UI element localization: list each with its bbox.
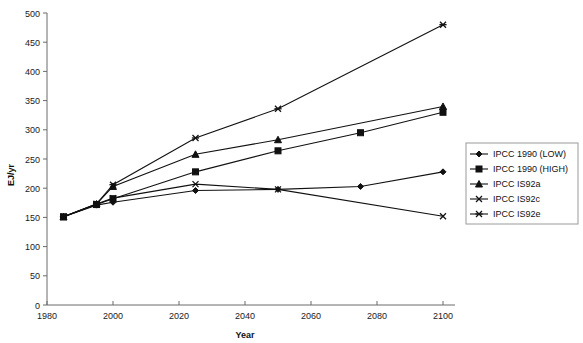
legend-label: IPCC 1990 (HIGH) [493, 164, 568, 174]
y-tick-label: 500 [25, 9, 40, 19]
x-axis-title: Year [235, 330, 255, 340]
y-tick-label: 350 [25, 96, 40, 106]
square-marker [440, 109, 446, 115]
legend-label: IPCC IS92c [493, 194, 541, 204]
y-tick-label: 400 [25, 67, 40, 77]
data-point-square [440, 109, 446, 115]
data-point-square [476, 166, 482, 172]
legend-label: IPCC 1990 (LOW) [493, 149, 566, 159]
x-tick-label: 2100 [433, 311, 453, 321]
y-tick-label: 300 [25, 125, 40, 135]
x-tick-label: 1980 [37, 311, 57, 321]
x-tick-label: 2020 [169, 311, 189, 321]
y-tick-label: 450 [25, 38, 40, 48]
square-marker [358, 130, 364, 136]
x-tick-label: 2000 [103, 311, 123, 321]
data-point-square [193, 169, 199, 175]
data-point-square [275, 148, 281, 154]
square-marker [193, 169, 199, 175]
y-axis-title: EJ/yr [6, 164, 16, 187]
y-tick-label: 100 [25, 242, 40, 252]
x-tick-label: 2040 [235, 311, 255, 321]
y-tick-label: 250 [25, 155, 40, 165]
legend-label: IPCC IS92e [493, 209, 541, 219]
legend-label: IPCC IS92a [493, 179, 541, 189]
y-tick-label: 50 [30, 271, 40, 281]
x-tick-label: 2060 [301, 311, 321, 321]
data-point-square [358, 130, 364, 136]
chart-container: 050100150200250300350400450500 198020002… [0, 0, 583, 343]
x-tick-label: 2080 [367, 311, 387, 321]
y-tick-label: 150 [25, 213, 40, 223]
line-chart: 050100150200250300350400450500 198020002… [0, 0, 583, 343]
y-tick-label: 0 [35, 301, 40, 311]
y-tick-label: 200 [25, 184, 40, 194]
square-marker [476, 166, 482, 172]
square-marker [275, 148, 281, 154]
